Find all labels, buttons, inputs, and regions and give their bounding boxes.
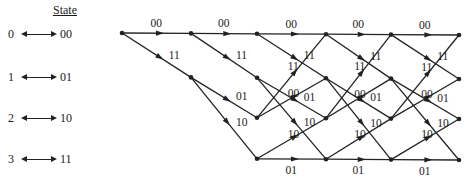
branch-output-label: 11 [304, 49, 315, 61]
branch-output-label: 01 [437, 92, 449, 104]
branch-output-label: 11 [421, 61, 432, 73]
trellis-node [389, 157, 394, 162]
branch-output-label: 00 [421, 88, 433, 100]
branch-output-label: 00 [218, 17, 230, 29]
branch-output-label: 11 [236, 49, 247, 61]
arrow-icon [358, 32, 366, 37]
arrow-icon [155, 53, 165, 62]
branch-output-label: 11 [169, 49, 180, 61]
branch-output-label: 00 [151, 17, 163, 29]
arrow-icon [291, 156, 299, 161]
branch-output-label: 11 [354, 60, 365, 72]
trellis-node [324, 157, 329, 162]
arrow-icon [223, 53, 233, 62]
trellis-node [324, 32, 329, 37]
trellis-node [389, 32, 394, 37]
arrow-icon [358, 157, 366, 162]
trellis-node [457, 77, 462, 82]
trellis-node [255, 76, 260, 81]
trellis-branch [122, 33, 191, 77]
trellis-diagram: 0011001101100011011011001001001101101100… [0, 0, 476, 184]
arrow-icon [223, 95, 233, 104]
branch-output-label: 01 [419, 165, 431, 177]
trellis-node [255, 116, 260, 121]
trellis-node [324, 76, 329, 81]
branch-output-label: 01 [286, 164, 298, 176]
trellis-node [189, 75, 194, 80]
trellis-branch [326, 35, 391, 119]
branch-output-label: 00 [419, 19, 431, 31]
branch-output-label: 01 [370, 91, 382, 103]
trellis-edge-labels: 0011001101100011011011001001001101101100… [151, 17, 449, 177]
branch-output-label: 00 [354, 88, 366, 100]
trellis-node [457, 117, 462, 122]
trellis-branch [257, 34, 326, 118]
branch-output-label: 11 [288, 60, 299, 72]
branch-output-label: 01 [353, 164, 365, 176]
arrow-icon [424, 32, 432, 37]
branch-output-label: 10 [288, 128, 300, 140]
branch-output-label: 10 [370, 117, 382, 129]
branch-output-label: 11 [437, 50, 448, 62]
trellis-node [389, 116, 394, 121]
trellis-node [120, 31, 125, 36]
arrow-icon [424, 157, 432, 162]
branch-output-label: 10 [437, 117, 449, 129]
trellis-node [255, 32, 260, 37]
branch-output-label: 01 [236, 90, 248, 102]
arrow-icon [291, 31, 299, 36]
trellis-node [324, 116, 329, 121]
arrow-icon [223, 31, 231, 36]
branch-output-label: 10 [304, 116, 316, 128]
branch-output-label: 00 [286, 18, 298, 30]
branch-output-label: 11 [370, 50, 381, 62]
branch-output-label: 01 [304, 91, 316, 103]
branch-output-label: 00 [288, 87, 300, 99]
trellis-node [457, 158, 462, 163]
trellis-node [189, 31, 194, 36]
trellis-node [255, 157, 260, 162]
branch-output-label: 00 [353, 18, 365, 30]
branch-output-label: 10 [354, 128, 366, 140]
trellis-node [457, 33, 462, 38]
trellis-node [389, 76, 394, 81]
branch-output-label: 10 [421, 128, 433, 140]
trellis-branch [391, 35, 459, 119]
arrow-icon [156, 31, 164, 36]
branch-output-label: 10 [236, 116, 248, 128]
